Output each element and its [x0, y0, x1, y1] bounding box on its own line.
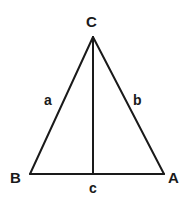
side-label-c: c	[89, 181, 97, 195]
triangle-side-a-line	[30, 37, 93, 174]
triangle-diagram: C B A a b c	[0, 0, 186, 203]
vertex-label-a: A	[168, 170, 179, 185]
vertex-label-b: B	[10, 170, 21, 185]
side-label-a: a	[44, 93, 52, 107]
vertex-label-c: C	[86, 14, 97, 29]
triangle-drawing	[0, 0, 186, 203]
triangle-side-b-line	[93, 37, 164, 174]
side-label-b: b	[133, 93, 142, 107]
